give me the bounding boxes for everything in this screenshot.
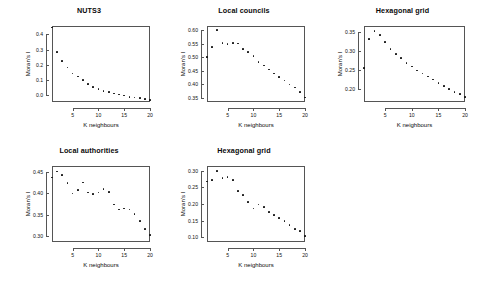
data-point (299, 91, 301, 93)
y-tick-label: 0.35 (330, 29, 355, 35)
x-tick-mark (465, 108, 466, 111)
y-tick-mark (201, 98, 204, 99)
plot-area (207, 26, 305, 102)
y-axis-label: Moran's I (25, 192, 31, 217)
x-axis-label: K neighbours (52, 262, 150, 268)
y-tick-mark (201, 237, 204, 238)
y-tick-label: 0.1 (18, 77, 43, 83)
data-point (87, 83, 89, 85)
chart-panel: Hexagonal grid0.100.150.200.250.30510152… (173, 146, 315, 282)
y-axis-line (358, 32, 359, 89)
y-axis-line (46, 172, 47, 235)
y-tick-mark (201, 187, 204, 188)
x-tick-label: 5 (226, 252, 229, 258)
x-tick-label: 5 (71, 252, 74, 258)
data-point (278, 76, 280, 78)
y-tick-mark (201, 71, 204, 72)
data-point (61, 60, 63, 62)
chart-panel: NUTS30.00.10.20.30.45101520K neighboursM… (18, 6, 160, 142)
data-point (206, 56, 208, 58)
x-axis-line (228, 248, 305, 249)
y-tick-mark (358, 89, 361, 90)
x-tick-label: 20 (462, 112, 468, 118)
data-point (247, 51, 249, 53)
y-tick-mark (46, 34, 49, 35)
x-tick-mark (253, 248, 254, 251)
data-point (232, 42, 234, 44)
y-tick-label: 0.40 (173, 81, 198, 87)
plot-area (52, 26, 150, 102)
x-tick-mark (124, 248, 125, 251)
chart-panel: Local authorities0.300.350.400.455101520… (18, 146, 160, 282)
panel-title: Local councils (173, 6, 315, 15)
data-point (443, 85, 445, 87)
y-tick-mark (201, 171, 204, 172)
x-tick-mark (228, 248, 229, 251)
x-tick-mark (305, 248, 306, 251)
data-point (304, 97, 306, 99)
data-point (263, 65, 265, 67)
y-tick-mark (46, 172, 49, 173)
data-point (395, 53, 397, 55)
y-tick-mark (46, 236, 49, 237)
y-tick-mark (201, 30, 204, 31)
data-point (448, 88, 450, 90)
x-axis-line (73, 108, 150, 109)
x-tick-mark (150, 108, 151, 111)
data-point (242, 48, 244, 50)
data-point (77, 189, 79, 191)
plot-area (364, 26, 465, 102)
data-point (211, 46, 213, 48)
x-tick-label: 15 (276, 112, 282, 118)
panel-title: Local authorities (18, 146, 160, 155)
data-point (113, 204, 115, 206)
data-point (129, 96, 131, 98)
data-point (144, 98, 146, 100)
data-point (108, 91, 110, 93)
data-point (363, 67, 365, 69)
y-tick-label: 0.25 (173, 184, 198, 190)
y-axis-line (201, 30, 202, 98)
y-tick-label: 0.30 (173, 168, 198, 174)
x-axis-label: K neighbours (52, 122, 150, 128)
data-point (242, 194, 244, 196)
figure-panel-grid: NUTS30.00.10.20.30.45101520K neighboursM… (0, 0, 481, 285)
y-tick-mark (46, 80, 49, 81)
plot-area (52, 166, 150, 242)
x-tick-mark (73, 248, 74, 251)
y-axis-label: Moran's I (180, 192, 186, 217)
x-tick-label: 5 (226, 112, 229, 118)
x-tick-label: 15 (121, 112, 127, 118)
x-tick-label: 5 (384, 112, 387, 118)
y-axis-label: Moran's I (25, 52, 31, 77)
panel-title: Hexagonal grid (173, 146, 315, 155)
x-tick-mark (98, 108, 99, 111)
y-tick-mark (358, 51, 361, 52)
y-tick-label: 0.4 (18, 31, 43, 37)
data-point (237, 190, 239, 192)
y-tick-mark (46, 95, 49, 96)
x-tick-mark (73, 108, 74, 111)
y-axis-label: Moran's I (337, 52, 343, 77)
y-tick-mark (46, 50, 49, 51)
data-point (211, 179, 213, 181)
data-point (51, 177, 53, 179)
x-axis-line (228, 108, 305, 109)
x-tick-label: 5 (71, 112, 74, 118)
data-point (108, 191, 110, 193)
data-point (56, 51, 58, 53)
y-tick-mark (46, 65, 49, 66)
y-tick-mark (46, 193, 49, 194)
y-tick-mark (201, 84, 204, 85)
y-tick-mark (201, 44, 204, 45)
x-tick-label: 10 (409, 112, 415, 118)
chart-panel: Hexagonal grid0.200.250.300.355101520K n… (330, 6, 475, 142)
x-tick-label: 15 (276, 252, 282, 258)
x-axis-label: K neighbours (364, 122, 465, 128)
x-tick-mark (279, 248, 280, 251)
y-tick-label: 0.35 (173, 95, 198, 101)
data-point (464, 96, 466, 98)
x-tick-mark (98, 248, 99, 251)
x-tick-mark (385, 108, 386, 111)
data-point (454, 91, 456, 93)
